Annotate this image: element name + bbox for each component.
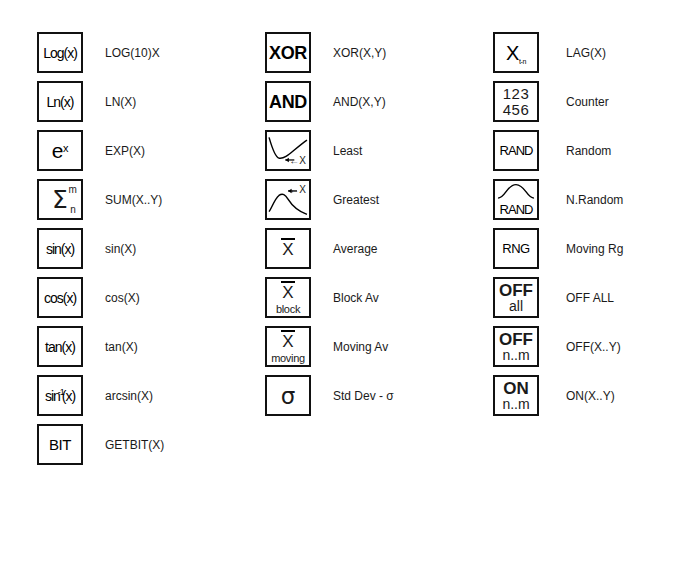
icon-label-std-dev: Std Dev - σ [333, 375, 394, 402]
icon-row-std-dev[interactable]: σ Std Dev - σ [265, 375, 394, 424]
counter-line-2: 456 [503, 102, 530, 117]
icon-label-getbit: GETBIT(X) [105, 424, 164, 451]
tan-icon[interactable]: tan(x) [37, 326, 83, 367]
cos-icon[interactable]: cos(x) [37, 277, 83, 318]
icon-row-on-range[interactable]: ON n..m ON(X..Y) [493, 375, 623, 424]
icon-row-lag[interactable]: Xt-n LAG(X) [493, 32, 623, 81]
xor-icon[interactable]: XOR [265, 32, 311, 73]
icon-row-cos[interactable]: cos(x) cos(X) [37, 277, 164, 326]
counter-icon-glyph: 123 456 [503, 86, 530, 117]
icon-row-xor[interactable]: XOR XOR(X,Y) [265, 32, 394, 81]
icon-row-greatest[interactable]: ←X Greatest [265, 179, 394, 228]
lag-base: X [506, 42, 519, 64]
icon-label-block-average: Block Av [333, 277, 379, 304]
icon-column-2: XOR XOR(X,Y) AND AND(X,Y) ←X Least [265, 32, 394, 424]
icon-row-least[interactable]: ←X Least [265, 130, 394, 179]
icon-label-log: LOG(10)X [105, 32, 160, 59]
random-icon[interactable]: RAND [493, 130, 539, 171]
icon-row-random[interactable]: RAND Random [493, 130, 623, 179]
arcsin-tail: (x) [62, 388, 75, 404]
greatest-icon[interactable]: ←X [265, 179, 311, 220]
icon-row-tan[interactable]: tan(x) tan(X) [37, 326, 164, 375]
icon-label-arcsin: arcsin(X) [105, 375, 153, 402]
icon-row-log[interactable]: Log(x) LOG(10)X [37, 32, 164, 81]
sin-icon[interactable]: sin(x) [37, 228, 83, 269]
icon-row-ln[interactable]: Ln(x) LN(X) [37, 81, 164, 130]
moving-average-sublabel: moving [271, 353, 305, 364]
least-icon[interactable]: ←X [265, 130, 311, 171]
on-range-line-2: n..m [502, 397, 529, 411]
moving-range-icon-glyph: RNG [502, 242, 530, 255]
sigma-lower-limit: n [70, 204, 76, 215]
off-all-line-2: all [509, 299, 523, 313]
log-icon-glyph: Log(x) [43, 46, 77, 60]
icon-reference-sheet: Log(x) LOG(10)X Ln(x) LN(X) ex EXP(X) Σ … [0, 0, 674, 578]
lag-icon-glyph: Xt-n [506, 43, 526, 63]
off-all-line-1: OFF [499, 282, 533, 299]
exp-base: e [52, 139, 63, 162]
and-icon-glyph: AND [269, 93, 307, 111]
std-dev-icon[interactable]: σ [265, 375, 311, 416]
icon-row-sin[interactable]: sin(x) sin(X) [37, 228, 164, 277]
arcsin-icon-glyph: sin-1(x) [45, 389, 75, 403]
on-range-icon[interactable]: ON n..m [493, 375, 539, 416]
average-icon[interactable]: X [265, 228, 311, 269]
icon-row-moving-range[interactable]: RNG Moving Rg [493, 228, 623, 277]
icon-label-off-all: OFF ALL [566, 277, 614, 304]
icon-row-sum[interactable]: Σ m n SUM(X..Y) [37, 179, 164, 228]
off-range-line-1: OFF [499, 331, 533, 348]
icon-label-least: Least [333, 130, 362, 157]
icon-column-1: Log(x) LOG(10)X Ln(x) LN(X) ex EXP(X) Σ … [37, 32, 164, 473]
icon-label-greatest: Greatest [333, 179, 379, 206]
icon-row-off-range[interactable]: OFF n..m OFF(X..Y) [493, 326, 623, 375]
icon-label-cos: cos(X) [105, 277, 140, 304]
ln-icon[interactable]: Ln(x) [37, 81, 83, 122]
block-average-sublabel: block [276, 304, 300, 315]
moving-range-icon[interactable]: RNG [493, 228, 539, 269]
counter-line-1: 123 [503, 86, 530, 101]
icon-label-sin: sin(X) [105, 228, 136, 255]
exp-icon[interactable]: ex [37, 130, 83, 171]
icon-label-lag: LAG(X) [566, 32, 606, 59]
sigma-symbol: Σ [52, 185, 68, 214]
icon-label-and: AND(X,Y) [333, 81, 386, 108]
sum-icon[interactable]: Σ m n [37, 179, 83, 220]
moving-average-icon[interactable]: X moving [265, 326, 311, 367]
off-range-icon[interactable]: OFF n..m [493, 326, 539, 367]
icon-label-normal-random: N.Random [566, 179, 623, 206]
icon-label-moving-range: Moving Rg [566, 228, 623, 255]
lag-icon[interactable]: Xt-n [493, 32, 539, 73]
moving-average-icon-glyph: X moving [271, 330, 305, 364]
least-icon-glyph: ←X [289, 155, 306, 166]
icon-label-exp: EXP(X) [105, 130, 145, 157]
counter-icon[interactable]: 123 456 [493, 81, 539, 122]
std-dev-icon-glyph: σ [281, 383, 296, 409]
getbit-icon[interactable]: BIT [37, 424, 83, 465]
icon-label-ln: LN(X) [105, 81, 136, 108]
icon-label-sum: SUM(X..Y) [105, 179, 162, 206]
xor-icon-glyph: XOR [269, 44, 307, 62]
off-all-icon[interactable]: OFF all [493, 277, 539, 318]
sin-icon-glyph: sin(x) [46, 242, 74, 256]
icon-row-moving-average[interactable]: X moving Moving Av [265, 326, 394, 375]
icon-row-arcsin[interactable]: sin-1(x) arcsin(X) [37, 375, 164, 424]
icon-row-exp[interactable]: ex EXP(X) [37, 130, 164, 179]
block-average-icon[interactable]: X block [265, 277, 311, 318]
cos-icon-glyph: cos(x) [44, 291, 76, 305]
lag-subscript: t-n [519, 58, 526, 65]
icon-row-counter[interactable]: 123 456 Counter [493, 81, 623, 130]
icon-row-normal-random[interactable]: RAND N.Random [493, 179, 623, 228]
getbit-icon-glyph: BIT [49, 437, 71, 452]
arcsin-icon[interactable]: sin-1(x) [37, 375, 83, 416]
and-icon[interactable]: AND [265, 81, 311, 122]
icon-row-getbit[interactable]: BIT GETBIT(X) [37, 424, 164, 473]
icon-row-off-all[interactable]: OFF all OFF ALL [493, 277, 623, 326]
icon-row-block-average[interactable]: X block Block Av [265, 277, 394, 326]
normal-random-icon-glyph: RAND [495, 203, 537, 216]
icon-row-and[interactable]: AND AND(X,Y) [265, 81, 394, 130]
sum-icon-glyph: Σ m n [52, 187, 68, 212]
log-icon[interactable]: Log(x) [37, 32, 83, 73]
block-average-icon-glyph: X block [276, 281, 300, 315]
icon-row-average[interactable]: X Average [265, 228, 394, 277]
normal-random-icon[interactable]: RAND [493, 179, 539, 220]
